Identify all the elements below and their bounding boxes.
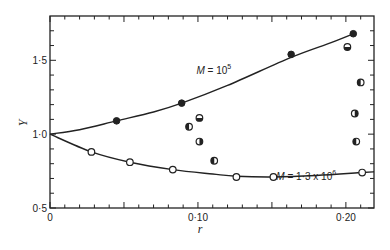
open-circle-point [359,169,366,176]
curve-annotation: M = 105 [196,63,231,76]
data-points [88,30,365,180]
y-tick-label: 1·0 [33,129,48,140]
y-axis-label: Y [16,118,30,126]
open-circle-point [169,166,176,173]
x-axis-label: r [198,222,203,236]
filled-circle-point [178,100,185,107]
half-filled-circle-point [357,79,364,86]
filled-circle-point [288,51,295,58]
filled-circle-point [350,30,357,37]
curve-annotation: M = 1·3 x 106 [276,169,336,182]
half-filled-circle-point [353,138,360,145]
curve-annotations: M = 105M = 1·3 x 106 [196,63,336,182]
half-filled-circle-point [196,138,203,145]
half-filled-circle-point [211,157,218,164]
half-filled-circle-point [186,123,193,130]
y-tick-label: 1·5 [33,55,48,66]
x-tick-label: 0 [47,212,53,223]
chart: 00·100·200·51·01·5 Y r M = 105M = 1·3 x … [0,0,390,250]
x-tick-label: 0·20 [336,212,356,223]
y-tick-label: 0·5 [33,203,48,214]
half-filled-circle-point [344,44,351,51]
half-filled-circle-point [196,115,203,122]
fit-curves [50,34,374,177]
half-filled-circle-point [351,110,358,117]
filled-circle-point [113,118,120,125]
open-circle-point [233,174,240,181]
open-circle-point [127,159,134,166]
open-circle-point [88,149,95,156]
axis-tick-labels: 00·100·200·51·01·5 [33,55,357,223]
